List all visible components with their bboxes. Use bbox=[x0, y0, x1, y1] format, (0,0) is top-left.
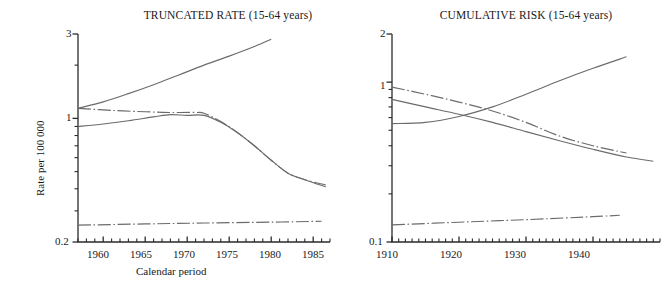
x-tick-label-left-2: 1970 bbox=[173, 248, 195, 260]
y-tick-label-left-0: 3 bbox=[66, 27, 72, 39]
y-tick-label-left-1: 1 bbox=[66, 111, 72, 123]
x-tick-label-left-4: 1980 bbox=[259, 248, 281, 260]
y-tick-label-right-0: 2 bbox=[380, 27, 386, 39]
panel-truncated-rate: TRUNCATED RATE (15-64 years) Rate per 10… bbox=[0, 0, 340, 293]
x-tick-label-left-0: 1960 bbox=[87, 248, 109, 260]
x-tick-label-left-5: 1985 bbox=[302, 248, 324, 260]
y-tick-label-right-1: 1 bbox=[380, 79, 386, 91]
x-tick-label-right-1: 1920 bbox=[440, 248, 462, 260]
y-tick-label-left-2: 0.2 bbox=[55, 235, 69, 247]
x-tick-label-right-0: 1910 bbox=[376, 248, 398, 260]
figure-container: TRUNCATED RATE (15-64 years) Rate per 10… bbox=[0, 0, 662, 293]
panel-cumulative-risk: CUMULATIVE RISK (15-64 years) Risk per 1… bbox=[330, 0, 662, 293]
x-tick-label-left-1: 1965 bbox=[130, 248, 152, 260]
x-tick-label-right-3: 1940 bbox=[568, 248, 590, 260]
y-tick-label-right-2: 0.1 bbox=[369, 235, 383, 247]
plot-area-left bbox=[0, 0, 340, 293]
x-tick-label-left-3: 1975 bbox=[216, 248, 238, 260]
x-tick-label-right-2: 1930 bbox=[504, 248, 526, 260]
